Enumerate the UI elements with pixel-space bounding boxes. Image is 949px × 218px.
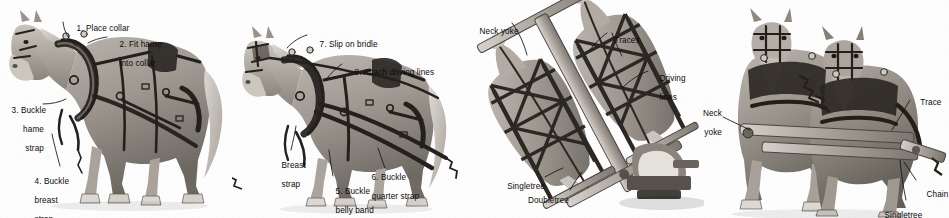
- label-neck-yoke-front: Neck yoke: [693, 99, 722, 147]
- label-singletree-front: Singletree: [875, 201, 922, 218]
- label-slip-on-bridle: 7. Slip on bridle: [310, 30, 378, 59]
- label-neck-yoke-overhead: Neck yoke: [470, 17, 519, 46]
- label-breast-strap: Breast strap: [272, 151, 306, 199]
- label-fit-hame-into-collar: 2. Fit hame into collar: [110, 30, 162, 78]
- label-buckle-hame-strap: 3. Buckle hame strap: [2, 96, 44, 163]
- label-buckle-breast-strap: 4. Buckle breast strap: [25, 167, 69, 218]
- label-attach-driving-lines: 8. Attach driving lines: [345, 58, 434, 87]
- label-traces: Traces: [605, 26, 640, 55]
- label-buckle-quarter-strap: 6. Buckle quarter strap: [362, 163, 419, 211]
- label-trace: Trace: [911, 88, 941, 117]
- label-driving-lines: Driving lines: [650, 64, 686, 112]
- label-doubletree: Doubletree: [517, 186, 569, 215]
- harness-diagram-figure: 1. Place collar 2. Fit hame into collar …: [0, 0, 949, 218]
